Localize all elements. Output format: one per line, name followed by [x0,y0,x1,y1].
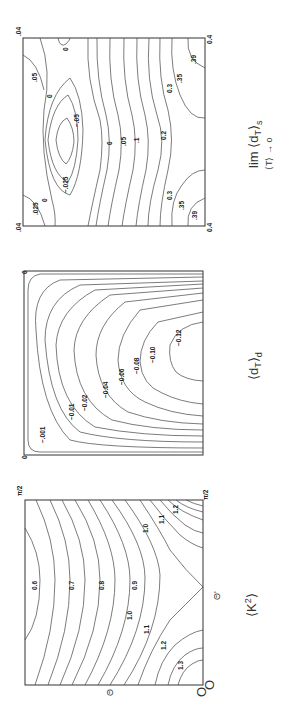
contour-label: 0 [106,141,113,145]
contour-label: 1.1 [143,625,150,634]
panel-K2-title: ⟨K2⟩ [243,593,259,617]
contour-label: −.025 [62,176,69,193]
contour-label: −.05 [73,114,80,127]
svg-text:⟨K2⟩: ⟨K2⟩ [243,593,259,617]
contour-label: 1.0 [142,524,149,533]
panel-dT-d-frame [24,271,203,455]
corner-label: .04 [15,27,22,36]
contour-label: 0.2 [160,131,167,140]
panel-dT-d-contours [28,274,203,452]
contour-label: .1 [133,137,140,143]
corner-label: 0.4 [206,35,213,44]
contour-label: 1.1 [158,515,165,524]
contour-label: 0.3 [166,84,173,93]
panel-K2: 0.6 0.7 0.8 0.9 1.0 1.1 1.2 1.0 1.1 1.2 … [16,485,259,697]
contour-label: 0.7 [68,581,75,590]
panel-dT-d: 0 0 −.001 −0.01 −0.02 −0.04 −0.06 −0.08 … [21,270,264,459]
corner-label: 0.4 [206,223,213,232]
panel-dT-d-title: ⟨dT⟩d [246,352,264,380]
panel-K2-frame [25,500,203,685]
contour-label: 1.3 [177,661,184,670]
contour-label: 1.0 [126,611,133,620]
contour-label: 1.2 [160,641,167,650]
contour-label: −0.10 [149,346,156,363]
contour-label: −0.02 [81,394,88,411]
contour-label: .05 [120,137,127,146]
contour-label: .35 [176,74,183,83]
origin-label-2: O [202,680,217,690]
contour-label: 0.8 [98,581,105,590]
contour-label: .35 [178,201,185,210]
contour-label: .39 [191,211,198,220]
contour-label: .025 [32,202,39,215]
contour-label: 0.9 [131,581,138,590]
x-axis-label: Θ' [212,591,222,600]
y-axis-label: Θ [105,689,115,696]
panel-dT-s-frame [23,38,205,226]
corner-label: .04 [15,223,22,232]
contour-label: −.001 [39,426,46,443]
contour-label: 0 [46,94,53,98]
contour-label: .39 [190,55,197,64]
panel-dT-s-contours [23,38,205,226]
x-tick-max: π/2 [202,489,209,500]
contour-label: −0.08 [133,357,140,374]
contour-label: −0.04 [102,381,109,398]
contour-label: −0.06 [118,368,125,385]
corner-label: 0 [21,270,28,274]
contour-label: 0.3 [166,191,173,200]
contour-label: .05 [31,73,38,82]
contour-label: −0.01 [68,403,75,420]
contour-label: −0.12 [175,329,182,346]
figure-canvas: .04 .04 0.4 0.4 .025 0 −.025 −.05 0 .05 … [0,0,287,716]
contour-label: 1.2 [172,505,179,514]
corner-label: 0 [21,455,28,459]
panel-K2-contours [25,500,203,685]
contour-label: 0 [41,198,48,202]
panel-dT-s-title: lim ⟨dT⟩s ⟨T⟩ → o [246,120,274,170]
contour-label: 0 [62,47,69,51]
y-tick-max: π/2 [16,485,23,496]
contour-label: 0.6 [31,581,38,590]
limit-text: ⟨T⟩ → o [264,137,274,170]
svg-text:⟨dT⟩d: ⟨dT⟩d [246,352,264,380]
panel-dT-s: .04 .04 0.4 0.4 .025 0 −.025 −.05 0 .05 … [15,27,274,232]
svg-text:lim ⟨dT⟩s: lim ⟨dT⟩s [246,120,264,168]
